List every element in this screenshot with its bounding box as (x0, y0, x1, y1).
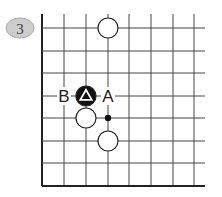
stones-layer: BA (57, 18, 118, 151)
white-stone (76, 108, 96, 128)
white-stone (98, 131, 118, 151)
point-label-b: B (58, 87, 69, 106)
white-stone (98, 18, 118, 38)
dot-marker-icon (105, 115, 111, 121)
badge-number: 3 (16, 21, 24, 37)
black-stone (76, 86, 96, 106)
diagram-number-badge: 3 (6, 18, 34, 38)
go-board-diagram: BA 3 (0, 0, 222, 197)
point-label-a: A (102, 87, 114, 106)
